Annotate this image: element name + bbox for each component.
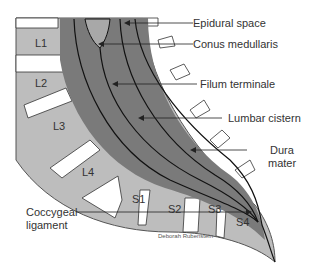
vertebra-s3: S3: [208, 203, 221, 215]
vertebra-l3: L3: [53, 120, 65, 132]
vertebra-s4: S4: [236, 216, 249, 228]
vertebra-s1: S1: [132, 193, 145, 205]
vertebra-l4: L4: [82, 166, 94, 178]
label-coccygeal-line1: Coccygeal: [26, 206, 77, 218]
vertebra-l2: L2: [35, 77, 47, 89]
label-coccygeal-line2: ligament: [26, 219, 68, 231]
vertebra-l1: L1: [35, 37, 47, 49]
credit-text: Deborah Rubenstein: [158, 233, 213, 239]
label-epidural-space: Epidural space: [193, 17, 266, 29]
label-dura-line2: mater: [268, 157, 296, 169]
label-filum-terminale: Filum terminale: [200, 78, 275, 90]
label-lumbar-cistern: Lumbar cistern: [228, 112, 301, 124]
label-dura-line1: Dura: [270, 144, 294, 156]
label-conus-medullaris: Conus medullaris: [193, 38, 278, 50]
vertebra-s2: S2: [168, 203, 181, 215]
